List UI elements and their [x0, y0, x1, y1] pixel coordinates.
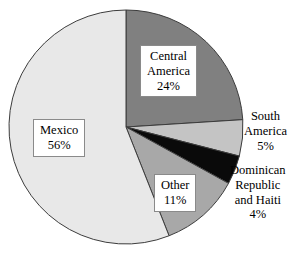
pie-slice-label-dominican-name1: Dominican [230, 163, 286, 178]
pie-slice-label-dominican-republic-haiti: Dominican Republic and Haiti 4% [230, 163, 286, 222]
pie-slice-label-mexico-value: 56% [40, 138, 78, 153]
pie-slice-label-central-america-name2: America [147, 64, 190, 79]
pie-slice-label-other: Other 11% [154, 174, 196, 212]
pie-slice-label-central-america-name1: Central [147, 49, 190, 64]
pie-slice-label-central-america-value: 24% [147, 79, 190, 94]
pie-slice-label-other-value: 11% [161, 193, 189, 208]
pie-slice-label-dominican-value: 4% [230, 207, 286, 222]
pie-slice-label-south-america-name1: South [244, 109, 287, 124]
pie-slice-label-mexico-name: Mexico [40, 123, 78, 138]
pie-slice-label-other-name: Other [161, 178, 189, 193]
pie-slice-label-dominican-name3: and Haiti [230, 193, 286, 208]
pie-slice-label-dominican-name2: Republic [230, 178, 286, 193]
pie-slice-label-south-america-value: 5% [244, 139, 287, 154]
pie-slice-label-central-america: Central America 24% [140, 45, 197, 97]
pie-slice-label-mexico: Mexico 56% [33, 119, 85, 157]
pie-chart-figure: Mexico 56% Central America 24% South Ame… [0, 0, 299, 254]
pie-slice-label-south-america-name2: America [244, 124, 287, 139]
pie-slice-label-south-america: South America 5% [244, 109, 287, 153]
